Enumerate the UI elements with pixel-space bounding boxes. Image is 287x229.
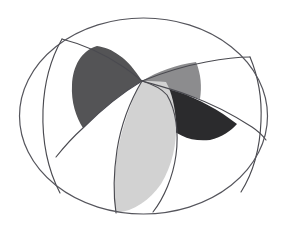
geometric-diagram-svg — [0, 0, 287, 229]
figure-container — [0, 0, 287, 229]
